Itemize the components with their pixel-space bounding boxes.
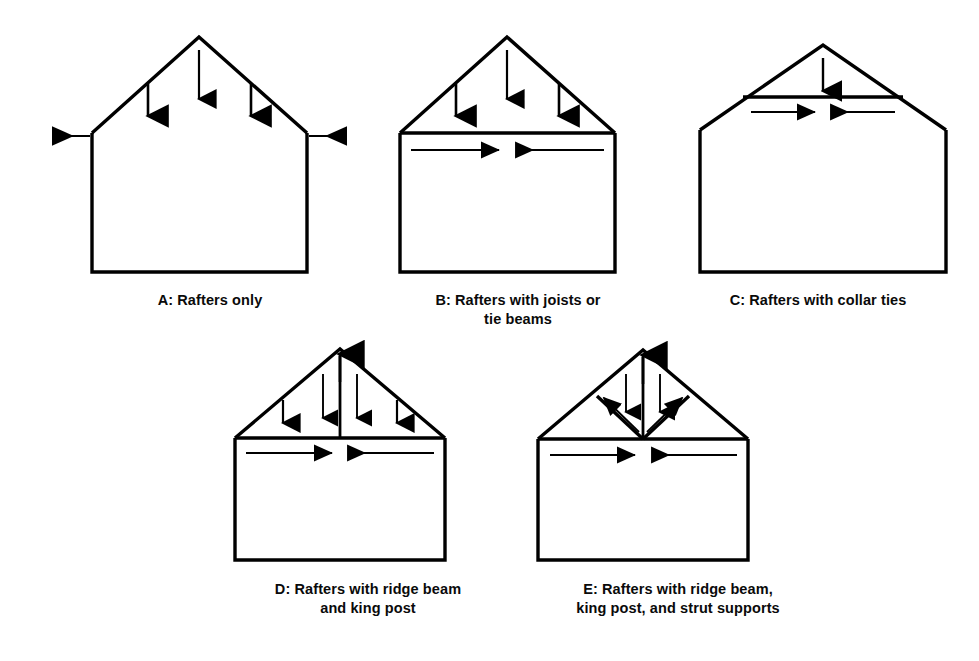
walls-and-floor-e (538, 439, 748, 560)
walls-and-floor-d (235, 438, 445, 560)
diagram-sheet: A: Rafters only (0, 0, 979, 661)
strut-right-e (643, 396, 689, 439)
caption-figure-c: C: Rafters with collar ties (668, 291, 968, 310)
caption-figure-a: A: Rafters only (60, 291, 360, 310)
load-arrows-b (456, 50, 559, 116)
strut-left-e (597, 396, 643, 439)
caption-figure-b: B: Rafters with joists or tie beams (368, 291, 668, 329)
caption-figure-d: D: Rafters with ridge beam and king post (218, 580, 518, 618)
walls-and-floor-c (700, 130, 946, 272)
figure-c-rafters-with-collar-ties (678, 28, 968, 288)
walls-and-floor-b (400, 133, 615, 272)
figure-d-ridge-beam-king-post (228, 338, 518, 588)
walls-and-floor-a (92, 133, 307, 272)
strut-arrow-left-e (604, 398, 639, 432)
load-arrows-a (148, 50, 251, 116)
figure-e-ridge-beam-king-post-struts (538, 338, 828, 588)
caption-figure-e: E: Rafters with ridge beam, king post, a… (518, 580, 838, 618)
figure-a-rafters-only (70, 28, 360, 288)
strut-arrow-right-e (647, 398, 682, 432)
figure-b-rafters-with-joists (378, 28, 668, 288)
